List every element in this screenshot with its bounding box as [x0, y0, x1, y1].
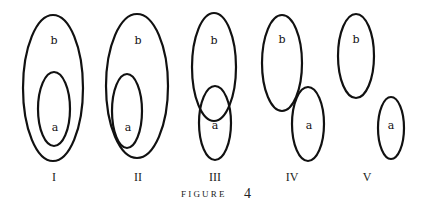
diagram-V: b a V: [338, 14, 404, 184]
diagram-IV: b a IV: [262, 15, 324, 184]
diagram-I: b a I: [23, 15, 83, 184]
set-b-label: b: [134, 34, 141, 47]
set-a-label: a: [306, 119, 313, 132]
set-a-label: a: [52, 121, 59, 134]
set-a-label: a: [212, 119, 219, 132]
set-b-ellipse: [262, 15, 302, 111]
figure-caption: FIGURE 4: [181, 186, 251, 201]
set-b-label: b: [50, 34, 57, 47]
set-a-ellipse: [38, 72, 70, 146]
diagram-III: b a III: [192, 13, 236, 184]
diagram-II: b a II: [106, 14, 168, 184]
diagram-numeral: V: [363, 170, 372, 184]
set-a-label: a: [388, 119, 395, 132]
set-b-label: b: [210, 34, 217, 47]
set-b-ellipse: [338, 14, 374, 98]
set-b-label: b: [352, 33, 359, 46]
diagram-numeral: I: [52, 170, 56, 184]
set-a-label: a: [125, 121, 132, 134]
caption-number: 4: [244, 186, 251, 201]
set-b-label: b: [278, 33, 285, 46]
diagram-numeral: III: [209, 170, 221, 184]
diagram-numeral: II: [134, 170, 142, 184]
diagram-numeral: IV: [286, 170, 299, 184]
caption-word: FIGURE: [181, 189, 227, 199]
set-a-ellipse: [112, 74, 142, 148]
figure-4-set-diagrams: b a I b a II b a III b a IV b a V FIGURE…: [0, 0, 422, 205]
